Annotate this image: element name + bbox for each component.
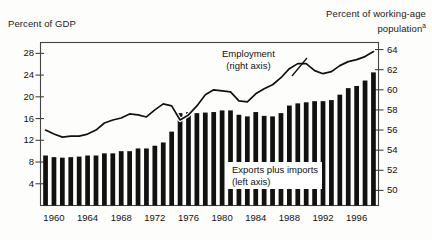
- bar: [161, 142, 166, 205]
- bar: [186, 112, 191, 205]
- plot-frame: [41, 43, 379, 206]
- annotation-employment: Employment (right axis): [218, 46, 279, 73]
- bar: [152, 146, 157, 206]
- y-axis-label-left: 4: [12, 178, 34, 189]
- bar: [253, 112, 258, 205]
- bar: [220, 110, 225, 205]
- annotation-employment-line2: (right axis): [222, 60, 275, 72]
- bar: [60, 158, 65, 206]
- bar: [102, 153, 107, 205]
- y-axis-label-right: 50: [387, 184, 409, 195]
- y-axis-label-left: 16: [12, 113, 34, 124]
- bar: [94, 156, 99, 206]
- bar: [52, 157, 57, 205]
- bar: [169, 132, 174, 206]
- y-axis-label-left: 12: [12, 134, 34, 145]
- y-axis-label-right: 64: [387, 44, 409, 55]
- annotation-employment-line1: Employment: [222, 48, 275, 60]
- bar: [203, 113, 208, 206]
- bar: [237, 115, 242, 206]
- annotation-exports-imports: Exports plus imports (left axis): [228, 162, 322, 189]
- bar: [211, 112, 216, 205]
- bar: [287, 106, 292, 206]
- y-axis-label-left: 28: [12, 47, 34, 58]
- bar: [329, 100, 334, 205]
- bar: [279, 113, 284, 205]
- bar: [337, 95, 342, 206]
- bar: [136, 148, 141, 205]
- bar: [363, 81, 368, 206]
- y-axis-label-left: 20: [12, 91, 34, 102]
- bar: [295, 103, 300, 205]
- bar: [371, 72, 376, 205]
- bar: [178, 113, 183, 205]
- x-axis-label: 1996: [337, 212, 377, 223]
- bar: [354, 86, 359, 206]
- y-axis-label-right: 52: [387, 164, 409, 175]
- chart-figure: Percent of GDP Percent of working-age po…: [0, 0, 432, 240]
- bar: [304, 102, 309, 205]
- y-axis-label-right: 56: [387, 124, 409, 135]
- bar: [346, 88, 351, 205]
- bar: [127, 151, 132, 205]
- bar: [110, 153, 115, 205]
- bar: [77, 157, 82, 206]
- y-axis-label-right: 54: [387, 144, 409, 155]
- bar: [68, 157, 73, 205]
- y-axis-label-right: 60: [387, 84, 409, 95]
- plot-canvas: [0, 0, 432, 240]
- bar: [321, 101, 326, 205]
- bar: [195, 113, 200, 205]
- annotation-exports-imports-line1: Exports plus imports: [232, 164, 318, 176]
- bar: [119, 151, 124, 205]
- bar: [85, 156, 90, 206]
- y-axis-label-left: 24: [12, 69, 34, 80]
- y-axis-label-left: 8: [12, 156, 34, 167]
- bar: [312, 101, 317, 205]
- bar: [262, 116, 267, 206]
- y-axis-label-right: 58: [387, 104, 409, 115]
- bar: [245, 116, 250, 205]
- bar: [270, 116, 275, 205]
- y-axis-label-right: 62: [387, 64, 409, 75]
- bar: [144, 148, 149, 205]
- bar: [43, 156, 48, 206]
- bar: [228, 110, 233, 205]
- annotation-exports-imports-line2: (left axis): [232, 176, 318, 188]
